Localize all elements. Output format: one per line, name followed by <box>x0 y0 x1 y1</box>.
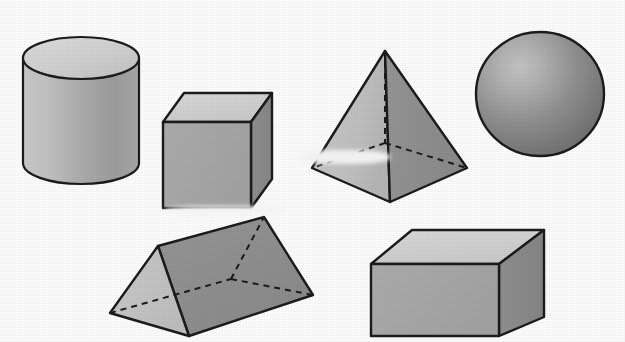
shape-triangular-prism <box>110 217 313 336</box>
shape-cylinder <box>23 37 139 184</box>
box-front-face <box>371 264 499 336</box>
pyramid-left-face <box>312 51 390 202</box>
shape-sphere <box>476 32 604 156</box>
cube-front-face <box>163 122 251 208</box>
geometric-solids-figure <box>0 0 625 342</box>
solids-illustration <box>0 0 625 342</box>
shape-square-pyramid <box>312 51 467 202</box>
shape-cube <box>163 93 272 208</box>
shape-rectangular-prism <box>371 230 544 336</box>
sphere-surface <box>476 32 604 156</box>
pyramid-right-face <box>385 51 467 202</box>
cylinder-top-face <box>23 37 139 79</box>
